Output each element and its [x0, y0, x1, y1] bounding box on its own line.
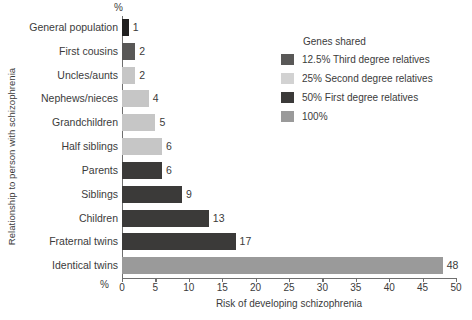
- bar-value-label: 2: [139, 43, 145, 60]
- category-label: Children: [79, 210, 118, 227]
- legend-item: 100%: [281, 108, 433, 125]
- legend-item: 50% First degree relatives: [281, 89, 433, 106]
- bar-value-label: 13: [213, 210, 225, 227]
- category-label: Half siblings: [61, 138, 118, 155]
- legend-item-label: 100%: [302, 111, 328, 122]
- x-axis-tick-label: 25: [283, 282, 294, 293]
- legend: Genes shared 12.5% Third degree relative…: [281, 36, 433, 127]
- category-label: Siblings: [81, 186, 118, 203]
- x-axis-title: Risk of developing schizophrenia: [122, 298, 456, 309]
- bar: [122, 138, 162, 155]
- bar-row: Children13: [122, 207, 456, 231]
- bar-row: Identical twins48: [122, 254, 456, 278]
- bar: [122, 162, 162, 179]
- bar: [122, 90, 149, 107]
- x-axis-tick-label: 10: [183, 282, 194, 293]
- bar-value-label: 5: [159, 114, 165, 131]
- category-label: Uncles/aunts: [57, 67, 118, 84]
- bar: [122, 186, 182, 203]
- bar-value-label: 6: [166, 138, 172, 155]
- category-label: First cousins: [59, 43, 118, 60]
- legend-title: Genes shared: [303, 36, 433, 47]
- category-label: Grandchildren: [52, 114, 118, 131]
- bar: [122, 43, 135, 60]
- x-axis-tick-label: 20: [250, 282, 261, 293]
- x-axis-tick-label: 40: [384, 282, 395, 293]
- legend-swatch-icon: [281, 111, 294, 122]
- bar: [122, 257, 443, 274]
- category-label: General population: [29, 19, 118, 36]
- legend-swatch-icon: [281, 73, 294, 84]
- bar-value-label: 2: [139, 67, 145, 84]
- legend-item: 12.5% Third degree relatives: [281, 51, 433, 68]
- x-axis-tick-label: 15: [217, 282, 228, 293]
- bar-row: Fraternal twins17: [122, 230, 456, 254]
- bar: [122, 114, 155, 131]
- schizophrenia-risk-bar-chart: Relationship to person with schizophreni…: [0, 0, 472, 320]
- x-axis-tick-label: 0: [119, 282, 125, 293]
- legend-swatch-icon: [281, 54, 294, 65]
- bar-value-label: 4: [153, 90, 159, 107]
- category-label: Fraternal twins: [49, 233, 118, 250]
- x-axis-tick-label: 5: [153, 282, 159, 293]
- bar: [122, 67, 135, 84]
- bar-value-label: 48: [447, 257, 459, 274]
- bar-row: Half siblings6: [122, 135, 456, 159]
- bar: [122, 233, 236, 250]
- category-label: Parents: [82, 162, 118, 179]
- percent-unit-bottom: %: [100, 279, 109, 290]
- y-axis-title: Relationship to person with schizophreni…: [6, 32, 17, 282]
- legend-item-label: 25% Second degree relatives: [302, 73, 433, 84]
- category-label: Identical twins: [52, 257, 118, 274]
- x-axis-tick-label: 35: [350, 282, 361, 293]
- legend-entries: 12.5% Third degree relatives25% Second d…: [281, 51, 433, 125]
- bar: [122, 19, 129, 36]
- bar-value-label: 6: [166, 162, 172, 179]
- legend-item: 25% Second degree relatives: [281, 70, 433, 87]
- x-axis-tick-label: 30: [317, 282, 328, 293]
- bar-value-label: 9: [186, 186, 192, 203]
- x-axis-tick-label: 45: [417, 282, 428, 293]
- x-axis-tick-label: 50: [450, 282, 461, 293]
- bar: [122, 210, 209, 227]
- bar-value-label: 1: [133, 19, 139, 36]
- category-label: Nephews/nieces: [41, 90, 118, 107]
- bar-value-label: 17: [240, 233, 252, 250]
- legend-item-label: 50% First degree relatives: [302, 92, 418, 103]
- percent-unit-top: %: [114, 2, 123, 13]
- bar-row: Siblings9: [122, 183, 456, 207]
- bar-row: Parents6: [122, 159, 456, 183]
- legend-swatch-icon: [281, 92, 294, 103]
- legend-item-label: 12.5% Third degree relatives: [302, 54, 430, 65]
